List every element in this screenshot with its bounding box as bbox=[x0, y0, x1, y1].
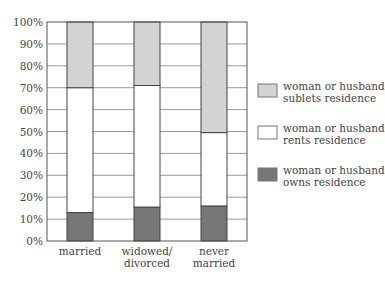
legend-label: owns residence bbox=[283, 176, 366, 188]
x-tick-label: married bbox=[193, 257, 236, 269]
x-tick-label: widowed/ bbox=[122, 245, 173, 257]
bar-segment bbox=[134, 86, 160, 208]
y-tick-label: 80% bbox=[20, 60, 43, 72]
legend-swatch bbox=[258, 126, 277, 139]
stacked-bar-chart: 0%10%20%30%40%50%60%70%80%90%100% marrie… bbox=[0, 0, 385, 282]
y-tick-label: 20% bbox=[20, 191, 43, 203]
y-tick-label: 90% bbox=[20, 38, 43, 50]
y-tick-label: 40% bbox=[20, 147, 43, 159]
legend-swatch bbox=[258, 84, 277, 97]
legend-label: rents residence bbox=[283, 134, 366, 146]
y-tick-label: 70% bbox=[20, 82, 43, 94]
legend-label: woman or husband bbox=[283, 80, 385, 92]
legend-label: woman or husband bbox=[283, 122, 385, 134]
bar-segment bbox=[201, 22, 227, 133]
x-tick-label: divorced bbox=[124, 257, 170, 269]
bars bbox=[67, 22, 227, 241]
bar-segment bbox=[67, 22, 93, 88]
x-axis-labels: marriedwidowed/divorcednevermarried bbox=[59, 245, 236, 269]
y-tick-label: 0% bbox=[26, 235, 43, 247]
bar-segment bbox=[67, 88, 93, 213]
legend-swatch bbox=[258, 168, 277, 181]
legend-label: woman or husband bbox=[283, 164, 385, 176]
bar-segment bbox=[134, 207, 160, 241]
y-tick-label: 10% bbox=[20, 213, 43, 225]
legend: woman or husbandsublets residencewoman o… bbox=[258, 80, 385, 188]
y-tick-label: 60% bbox=[20, 104, 43, 116]
y-tick-label: 30% bbox=[20, 169, 43, 181]
bar-segment bbox=[201, 206, 227, 241]
legend-label: sublets residence bbox=[283, 92, 376, 104]
x-tick-label: never bbox=[199, 245, 230, 257]
x-tick-label: married bbox=[59, 245, 102, 257]
bar-segment bbox=[67, 213, 93, 241]
y-tick-label: 50% bbox=[20, 126, 43, 138]
y-axis-ticks: 0%10%20%30%40%50%60%70%80%90%100% bbox=[13, 16, 43, 247]
y-tick-label: 100% bbox=[13, 16, 43, 28]
bar-segment bbox=[134, 22, 160, 86]
bar-segment bbox=[201, 133, 227, 206]
